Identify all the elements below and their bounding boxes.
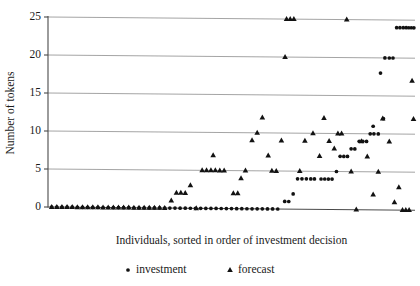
y-tick-label-10: 10 — [30, 124, 42, 136]
data-point-forecast — [297, 168, 303, 173]
data-point-forecast — [169, 197, 175, 202]
data-point-investment — [382, 117, 386, 121]
data-point-investment — [204, 207, 208, 211]
data-point-investment — [266, 207, 270, 211]
data-point-forecast — [331, 146, 337, 151]
data-point-investment — [189, 206, 193, 210]
data-point-investment — [342, 155, 346, 159]
data-point-forecast — [249, 137, 255, 142]
data-point-investment — [219, 207, 223, 211]
data-point-investment — [65, 205, 69, 209]
data-point-investment — [101, 206, 105, 210]
data-point-investment — [255, 207, 259, 211]
data-point-investment — [276, 207, 280, 211]
data-point-forecast — [392, 199, 398, 204]
legend-label-forecast: forecast — [238, 263, 275, 275]
data-point-forecast — [310, 130, 316, 135]
data-point-investment — [50, 205, 54, 209]
data-point-forecast — [317, 153, 323, 158]
gridline-25 — [48, 17, 415, 20]
data-point-forecast — [273, 168, 279, 173]
data-point-investment — [137, 206, 141, 210]
data-point-investment — [81, 205, 85, 209]
data-point-forecast — [370, 192, 376, 197]
data-point-investment — [235, 207, 239, 211]
data-point-forecast — [376, 169, 382, 174]
data-point-forecast — [243, 168, 249, 173]
legend-marker-forecast — [227, 267, 233, 272]
data-point-forecast — [260, 115, 266, 120]
data-point-forecast — [269, 168, 275, 173]
data-point-investment — [319, 177, 323, 181]
data-point-forecast — [204, 167, 210, 172]
data-point-investment — [391, 56, 395, 60]
data-point-investment — [271, 207, 275, 211]
data-point-investment — [387, 56, 391, 60]
data-point-investment — [309, 177, 313, 181]
data-point-investment — [395, 26, 399, 30]
data-point-investment — [330, 177, 334, 181]
data-point-investment — [376, 132, 380, 136]
data-point-investment — [371, 124, 375, 128]
data-point-investment — [60, 205, 64, 209]
data-point-investment — [398, 26, 402, 30]
y-axis-ticks-group — [44, 17, 48, 207]
data-point-forecast — [411, 116, 417, 121]
data-point-investment — [305, 177, 309, 181]
data-point-forecast — [302, 138, 308, 143]
data-point-forecast — [217, 167, 223, 172]
data-point-investment — [132, 206, 136, 210]
data-point-investment — [168, 206, 172, 210]
data-point-investment — [296, 177, 300, 181]
data-point-investment — [313, 177, 317, 181]
data-point-investment — [153, 206, 157, 210]
data-point-investment — [383, 56, 387, 60]
legend-marker-investment — [126, 268, 130, 272]
series-forecast-markers — [49, 16, 416, 212]
y-tick-label-25: 25 — [30, 10, 42, 22]
data-point-investment — [96, 206, 100, 210]
data-point-forecast — [210, 152, 216, 157]
data-point-investment — [214, 207, 218, 211]
data-point-investment — [178, 206, 182, 210]
data-point-investment — [76, 205, 80, 209]
data-point-forecast — [364, 153, 370, 158]
data-point-investment — [55, 205, 59, 209]
data-point-investment — [365, 140, 369, 144]
y-tick-label-15: 15 — [30, 86, 42, 98]
data-point-investment — [240, 207, 244, 211]
data-point-forecast — [235, 190, 241, 195]
series-investment-markers — [50, 26, 416, 211]
data-point-investment — [260, 207, 264, 211]
data-point-investment — [199, 206, 203, 210]
data-point-investment — [142, 206, 146, 210]
data-point-forecast — [231, 190, 237, 195]
y-axis-title: Number of tokens — [4, 71, 16, 155]
data-point-investment — [353, 147, 357, 151]
data-point-investment — [300, 177, 304, 181]
y-tick-label-20: 20 — [30, 48, 42, 60]
gridline-5 — [48, 169, 415, 172]
data-point-forecast — [291, 16, 297, 21]
data-point-investment — [117, 206, 121, 210]
y-tick-label-0: 0 — [35, 200, 41, 212]
data-point-investment — [194, 206, 198, 210]
data-point-investment — [106, 206, 110, 210]
data-point-investment — [372, 132, 376, 136]
data-point-forecast — [321, 115, 327, 120]
data-point-investment — [163, 206, 167, 210]
gridline-20 — [48, 55, 415, 58]
data-point-investment — [127, 206, 131, 210]
data-point-investment — [86, 206, 90, 210]
data-point-investment — [412, 26, 416, 30]
data-point-investment — [283, 200, 287, 204]
data-point-investment — [91, 206, 95, 210]
data-point-forecast — [344, 17, 350, 22]
data-point-forecast — [348, 169, 354, 174]
data-point-investment — [346, 155, 350, 159]
data-point-investment — [225, 207, 229, 211]
y-axis-tick-labels-group: 0510152025 — [30, 10, 42, 212]
data-point-investment — [357, 139, 361, 143]
data-point-forecast — [208, 167, 214, 172]
data-point-forecast — [182, 190, 188, 195]
